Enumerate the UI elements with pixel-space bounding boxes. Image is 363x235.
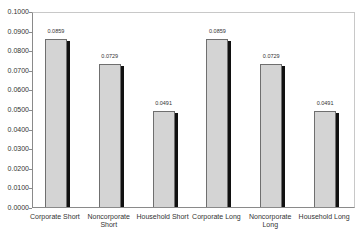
x-tick-label-line: Noncorporate [240, 213, 300, 221]
y-tick-label: 0.1000 [0, 8, 29, 16]
bar-shadow [336, 113, 339, 207]
bar-shadow [121, 66, 124, 207]
x-tick-label: NoncorporateShort [79, 213, 139, 229]
bar [153, 111, 175, 207]
bar-value-label: 0.0491 [139, 100, 189, 106]
x-tick-label-line: Corporate Short [25, 213, 85, 221]
bar-shadow [228, 41, 231, 207]
bar [45, 39, 67, 207]
y-tick-label: 0.0900 [0, 28, 29, 36]
bar-value-label: 0.0491 [300, 100, 350, 106]
y-tick-label: 0.0100 [0, 184, 29, 192]
x-tick-label: Corporate Short [25, 213, 85, 221]
bar [260, 64, 282, 207]
y-tick-label: 0.0700 [0, 67, 29, 75]
bar-shadow [282, 66, 285, 207]
y-tick-label: 0.0200 [0, 165, 29, 173]
x-tick-label: Corporate Long [186, 213, 246, 221]
y-tick-label: 0.0400 [0, 126, 29, 134]
bar-value-label: 0.0729 [246, 53, 296, 59]
x-tick-label: Household Long [294, 213, 354, 221]
x-tick-label-line: Household Long [294, 213, 354, 221]
bar [314, 111, 336, 207]
y-tick-label: 0.0800 [0, 47, 29, 55]
bar-value-label: 0.0729 [85, 53, 135, 59]
plot-area: 0.08590.07290.04910.08590.07290.0491 [32, 12, 355, 208]
y-tick-mark [29, 208, 32, 209]
bar-value-label: 0.0859 [31, 28, 81, 34]
y-tick-label: 0.0500 [0, 106, 29, 114]
y-tick-label: 0.0000 [0, 204, 29, 212]
y-tick-label: 0.0300 [0, 145, 29, 153]
x-tick-label: Household Short [133, 213, 193, 221]
bar-shadow [67, 41, 70, 207]
x-tick-label-line: Long [240, 221, 300, 229]
bar-shadow [175, 113, 178, 207]
x-tick-label-line: Noncorporate [79, 213, 139, 221]
bar [99, 64, 121, 207]
bar-chart: 0.00000.01000.02000.03000.04000.05000.06… [0, 0, 363, 235]
y-tick-label: 0.0600 [0, 86, 29, 94]
bar-value-label: 0.0859 [192, 28, 242, 34]
bar [206, 39, 228, 207]
x-tick-label-line: Short [79, 221, 139, 229]
x-tick-label-line: Household Short [133, 213, 193, 221]
x-tick-label: NoncorporateLong [240, 213, 300, 229]
x-tick-label-line: Corporate Long [186, 213, 246, 221]
